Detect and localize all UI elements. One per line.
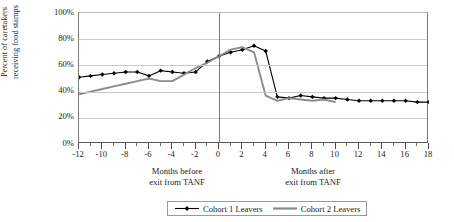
- data-point-marker: [135, 70, 139, 74]
- data-point-marker: [427, 100, 429, 104]
- data-point-marker: [275, 95, 279, 99]
- gridline: [79, 65, 427, 66]
- legend-label: Cohort 2 Leavers: [301, 204, 361, 214]
- x-axis-major-tick: [405, 143, 406, 149]
- x-axis-minor-tick: [183, 143, 184, 146]
- x-axis-minor-tick: [370, 143, 371, 146]
- chart-container: Percent of caretakers receiving food sta…: [0, 0, 454, 222]
- x-axis-major-tick: [241, 143, 242, 149]
- caption-line: exit from TANF: [248, 177, 378, 188]
- plot-area: [78, 12, 428, 143]
- legend-label: Cohort 1 Leavers: [203, 204, 263, 214]
- data-point-marker: [333, 96, 337, 100]
- x-axis-caption-before: Months beforeexit from TANF: [112, 166, 242, 188]
- data-point-marker: [368, 99, 372, 103]
- data-point-marker: [252, 44, 256, 48]
- x-axis-major-tick: [171, 143, 172, 149]
- x-axis-minor-tick: [113, 143, 114, 146]
- caption-line: Months before: [112, 166, 242, 177]
- gridline: [79, 92, 427, 93]
- x-axis-major-tick: [125, 143, 126, 149]
- series-layer: [79, 13, 429, 144]
- y-axis-tick-label: 0%: [34, 138, 74, 148]
- y-axis-tick-label: 20%: [34, 111, 74, 121]
- data-point-marker: [158, 68, 162, 72]
- y-axis-title-line1: Percent of caretakers: [0, 0, 11, 102]
- gridline: [79, 118, 427, 119]
- x-axis-minor-tick: [300, 143, 301, 146]
- x-axis-major-tick: [195, 143, 196, 149]
- legend-line-icon: [272, 204, 298, 213]
- data-point-marker: [88, 74, 92, 78]
- x-axis-tick-label: 18: [413, 149, 443, 159]
- x-axis-major-tick: [218, 143, 219, 149]
- data-point-marker: [298, 93, 302, 97]
- x-axis-major-tick: [101, 143, 102, 149]
- y-axis-tick-label: 40%: [34, 85, 74, 95]
- data-point-marker: [392, 99, 396, 103]
- x-axis-minor-tick: [276, 143, 277, 146]
- y-axis-tick-label: 60%: [34, 59, 74, 69]
- x-axis-minor-tick: [230, 143, 231, 146]
- y-axis-title-line2: receiving food stamps: [11, 0, 22, 102]
- y-axis-tick-labels: 100%80%60%40%20%0%: [28, 12, 74, 143]
- x-axis-major-tick: [265, 143, 266, 149]
- data-point-marker: [123, 70, 127, 74]
- reference-line-month-zero: [219, 13, 220, 142]
- x-axis-minor-tick: [206, 143, 207, 146]
- data-point-marker: [100, 72, 104, 76]
- x-axis-minor-tick: [253, 143, 254, 146]
- legend-item-1: Cohort 1 Leavers: [174, 204, 263, 214]
- y-axis-tick-label: 100%: [34, 7, 74, 17]
- chart-legend: Cohort 1 LeaversCohort 2 Leavers: [167, 201, 367, 216]
- x-axis-caption-after: Months afterexit from TANF: [248, 166, 378, 188]
- data-point-marker: [345, 97, 349, 101]
- x-axis-minor-tick: [393, 143, 394, 146]
- x-axis-major-tick: [428, 143, 429, 149]
- data-point-marker: [170, 70, 174, 74]
- x-axis-minor-tick: [323, 143, 324, 146]
- data-point-marker: [310, 95, 314, 99]
- x-axis-minor-tick: [416, 143, 417, 146]
- x-axis-major-tick: [358, 143, 359, 149]
- data-point-marker: [147, 74, 151, 78]
- x-axis-major-tick: [335, 143, 336, 149]
- caption-line: exit from TANF: [112, 177, 242, 188]
- caption-line: Months after: [248, 166, 378, 177]
- y-axis-tick-label: 80%: [34, 33, 74, 43]
- data-point-marker: [380, 99, 384, 103]
- data-point-marker: [403, 99, 407, 103]
- x-axis-major-tick: [288, 143, 289, 149]
- legend-line-marker-icon: [174, 204, 200, 213]
- x-axis-major-tick: [311, 143, 312, 149]
- x-axis-tick-labels: -12-10-8-6-4-2024681012141618: [78, 149, 428, 162]
- data-point-marker: [112, 71, 116, 75]
- data-point-marker: [79, 75, 81, 79]
- x-axis-minor-tick: [136, 143, 137, 146]
- legend-item-2: Cohort 2 Leavers: [272, 204, 361, 214]
- x-axis-minor-tick: [90, 143, 91, 146]
- data-point-marker: [263, 49, 267, 53]
- x-axis-major-tick: [148, 143, 149, 149]
- x-axis-minor-tick: [160, 143, 161, 146]
- x-axis-minor-tick: [346, 143, 347, 146]
- data-point-marker: [415, 100, 419, 104]
- x-axis-major-tick: [78, 143, 79, 149]
- series-line-2: [79, 47, 336, 102]
- x-axis-major-tick: [381, 143, 382, 149]
- data-point-marker: [357, 99, 361, 103]
- gridline: [79, 39, 427, 40]
